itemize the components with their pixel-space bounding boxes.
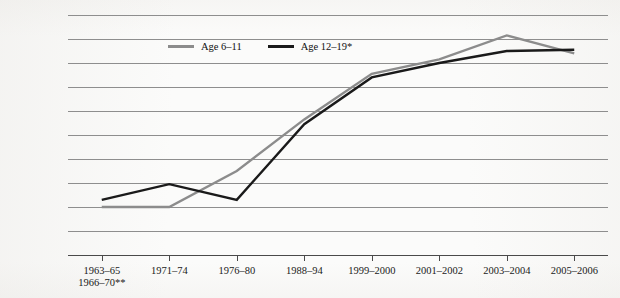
legend-swatch-icon [268, 45, 294, 48]
x-tick-0 [102, 255, 103, 261]
x-tick-label-7: 2005–2006 [519, 265, 620, 277]
x-tick-6 [507, 255, 508, 261]
legend-swatch-icon [168, 45, 194, 48]
x-tick-7 [574, 255, 575, 261]
chart-page: Percentage 20181614121086420 1963–651966… [0, 0, 620, 298]
chart-legend: Age 6–11Age 12–19* [168, 41, 352, 52]
legend-label: Age 12–19* [301, 41, 353, 52]
legend-item-1: Age 12–19* [268, 41, 353, 52]
x-tick-2 [237, 255, 238, 261]
legend-label: Age 6–11 [201, 41, 242, 52]
plot-area: 20181614121086420 1963–651966–70**1971–7… [68, 15, 608, 255]
x-tick-3 [304, 255, 305, 261]
series-line-age-6-11 [102, 35, 575, 207]
series-line-age-12-19- [102, 50, 575, 200]
x-tick-label-line1: 2005–2006 [551, 265, 598, 276]
x-tick-5 [439, 255, 440, 261]
x-tick-4 [372, 255, 373, 261]
x-tick-label-line2: 1966–70** [47, 277, 157, 289]
legend-item-0: Age 6–11 [168, 41, 242, 52]
x-axis-line [68, 255, 608, 256]
x-tick-1 [169, 255, 170, 261]
